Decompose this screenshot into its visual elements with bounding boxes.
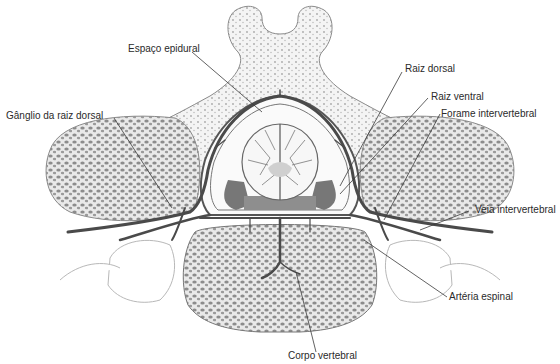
label-arteria-espinal: Artéria espinal (449, 291, 513, 303)
label-espaco-epidural: Espaço epidural (128, 43, 200, 55)
label-raiz-dorsal: Raiz dorsal (405, 63, 455, 75)
spinal-cord (242, 124, 318, 200)
label-raiz-ventral: Raiz ventral (431, 91, 484, 103)
vertebra-diagram (0, 0, 560, 364)
label-forame-intervertebral: Forame intervertebral (441, 108, 537, 120)
label-veia-intervertebral: Veia intervertebral (475, 204, 556, 216)
label-ganglio-raiz-dorsal: Gânglio da raiz dorsal (6, 110, 103, 122)
label-corpo-vertebral: Corpo vertebral (288, 350, 357, 362)
